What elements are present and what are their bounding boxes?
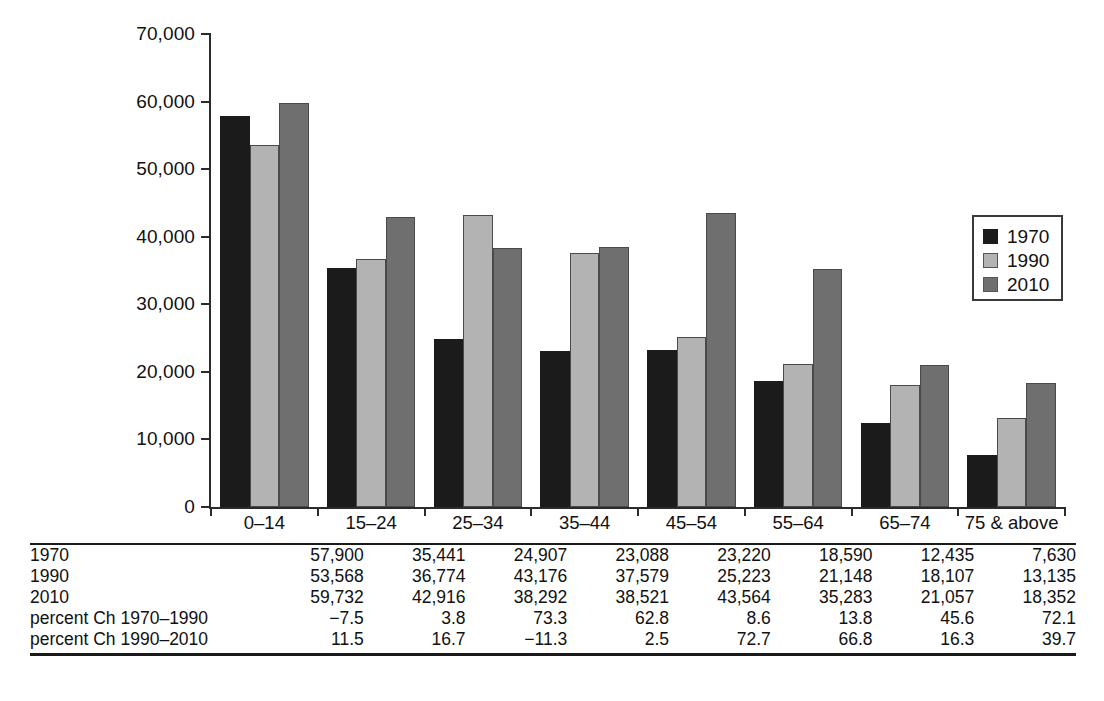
table-cell: 38,521 <box>567 587 669 608</box>
y-axis-tick-label-text: 10,000 <box>99 429 195 448</box>
table-cell: 23,088 <box>567 545 669 566</box>
table-cell: 43,176 <box>466 566 568 587</box>
bar-2010-35–44 <box>599 247 629 507</box>
y-axis-tick-label-text: 0 <box>99 497 195 516</box>
bar-2010-65–74 <box>920 365 950 507</box>
table-cell: 72.7 <box>669 629 771 650</box>
table-cell: 35,283 <box>771 587 873 608</box>
table-cell: 7,630 <box>974 545 1076 566</box>
bar-1970-45–54 <box>647 350 677 507</box>
table-row: 201059,73242,91638,29238,52143,56435,283… <box>30 587 1076 608</box>
bar-1970-65–74 <box>861 423 891 507</box>
bar-1990-55–64 <box>783 364 813 507</box>
data-table: 197057,90035,44124,90723,08823,22018,590… <box>30 543 1076 656</box>
table-cell: −7.5 <box>262 608 364 629</box>
table-cell: 21,057 <box>873 587 975 608</box>
bar-1970-15–24 <box>327 268 357 507</box>
table-body: 197057,90035,44124,90723,08823,22018,590… <box>30 545 1076 650</box>
legend-label-1970: 1970 <box>1007 227 1049 246</box>
y-axis-tick-label: 40,000 <box>99 227 195 247</box>
table-cell: 59,732 <box>262 587 364 608</box>
table-cell: 21,148 <box>771 566 873 587</box>
table-rows: 197057,90035,44124,90723,08823,22018,590… <box>30 545 1076 650</box>
bar-1990-45–54 <box>677 337 707 507</box>
y-axis-tick-label-text: 60,000 <box>99 92 195 111</box>
table-cell: 8.6 <box>669 608 771 629</box>
x-axis-category-label: 75 & above <box>958 514 1065 533</box>
table-row: 197057,90035,44124,90723,08823,22018,590… <box>30 545 1076 566</box>
table-row: 199053,56836,77443,17637,57925,22321,148… <box>30 566 1076 587</box>
x-axis-category-label: 25–34 <box>425 514 532 533</box>
table-cell: 11.5 <box>262 629 364 650</box>
legend-swatch-icon-2010 <box>983 277 998 292</box>
table-cell: 18,590 <box>771 545 873 566</box>
bar-1970-25–34 <box>434 339 464 507</box>
legend-label-2010: 2010 <box>1007 275 1049 294</box>
legend-swatch-icon-1990 <box>983 253 998 268</box>
y-axis-tick-label: 30,000 <box>99 294 195 314</box>
x-axis-category-label: 15–24 <box>318 514 425 533</box>
bar-1990-65–74 <box>890 385 920 507</box>
y-axis-tick-label: 70,000 <box>99 24 195 44</box>
x-axis-category-label: 55–64 <box>745 514 852 533</box>
legend-item-1970: 1970 <box>983 224 1061 248</box>
legend-item-1990: 1990 <box>983 248 1061 272</box>
table-row-label: 2010 <box>30 587 262 608</box>
table-cell: 73.3 <box>466 608 568 629</box>
table-cell: −11.3 <box>466 629 568 650</box>
bar-2010-45–54 <box>706 213 736 507</box>
y-axis-tick <box>201 236 211 238</box>
table-row-label: percent Ch 1970–1990 <box>30 608 262 629</box>
y-axis-tick-label-text: 30,000 <box>99 294 195 313</box>
table-cell: 53,568 <box>262 566 364 587</box>
y-axis-tick-label-text: 20,000 <box>99 362 195 381</box>
bar-chart-figure: 010,00020,00030,00040,00050,00060,00070,… <box>0 0 1104 545</box>
y-axis-tick-label: 50,000 <box>99 159 195 179</box>
table-cell: 39.7 <box>974 629 1076 650</box>
table-cell: 36,774 <box>364 566 466 587</box>
table-cell: 13.8 <box>771 608 873 629</box>
table-cell: 24,907 <box>466 545 568 566</box>
y-axis-tick <box>201 33 211 35</box>
legend-item-2010: 2010 <box>983 272 1061 296</box>
y-axis-tick-label: 10,000 <box>99 429 195 449</box>
table-cell: 16.3 <box>873 629 975 650</box>
bar-1990-25–34 <box>463 215 493 507</box>
x-axis-category-label: 65–74 <box>852 514 959 533</box>
y-axis-tick <box>201 303 211 305</box>
table-cell: 38,292 <box>466 587 568 608</box>
table-row: percent Ch 1990–201011.516.7−11.32.572.7… <box>30 629 1076 650</box>
x-axis-category-label: 35–44 <box>531 514 638 533</box>
bar-2010-0–14 <box>279 103 309 507</box>
table-cell: 25,223 <box>669 566 771 587</box>
bar-2010-75 & above <box>1026 383 1056 507</box>
table-cell: 13,135 <box>974 566 1076 587</box>
table-cell: 18,352 <box>974 587 1076 608</box>
table-cell: 12,435 <box>873 545 975 566</box>
table-row-label: 1970 <box>30 545 262 566</box>
bar-1990-0–14 <box>250 145 280 507</box>
table-cell: 37,579 <box>567 566 669 587</box>
table-cell: 2.5 <box>567 629 669 650</box>
table-bottom-rule <box>30 653 1076 656</box>
table-cell: 43,564 <box>669 587 771 608</box>
bar-1990-75 & above <box>997 418 1027 507</box>
bar-2010-25–34 <box>493 248 523 507</box>
x-axis-category-label: 0–14 <box>211 514 318 533</box>
bar-2010-15–24 <box>386 217 416 507</box>
table-cell: 45.6 <box>873 608 975 629</box>
table-cell: 57,900 <box>262 545 364 566</box>
table-row-label: percent Ch 1990–2010 <box>30 629 262 650</box>
table-cell: 62.8 <box>567 608 669 629</box>
x-axis-category-label: 45–54 <box>638 514 745 533</box>
table-row-label: 1990 <box>30 566 262 587</box>
table-cell: 66.8 <box>771 629 873 650</box>
y-axis-tick-label-text: 70,000 <box>99 24 195 43</box>
legend-label-1990: 1990 <box>1007 251 1049 270</box>
bar-1970-0–14 <box>220 116 250 507</box>
table-cell: 3.8 <box>364 608 466 629</box>
bar-1990-35–44 <box>570 253 600 507</box>
table-cell: 42,916 <box>364 587 466 608</box>
table-cell: 23,220 <box>669 545 771 566</box>
y-axis-tick-label-text: 50,000 <box>99 159 195 178</box>
